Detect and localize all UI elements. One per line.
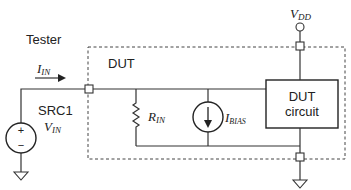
vdd-terminal-icon bbox=[296, 23, 304, 31]
src1-label: SRC1 bbox=[38, 103, 73, 118]
dut-circuit-label-line2: circuit bbox=[285, 104, 319, 119]
resistor-icon bbox=[133, 89, 139, 146]
rin-label: RIN bbox=[147, 109, 166, 125]
circuit-diagram: Tester DUT IIN + − SRC1 VIN RIN IBIAS DU… bbox=[0, 0, 351, 190]
vdd-label: VDD bbox=[290, 6, 311, 22]
iin-label: IIN bbox=[36, 61, 51, 77]
dut-circuit-label-line1: DUT bbox=[289, 89, 316, 104]
svg-text:+: + bbox=[18, 124, 24, 136]
svg-text:−: − bbox=[18, 139, 24, 151]
voltage-source-icon: + − bbox=[6, 123, 36, 153]
dut-label: DUT bbox=[108, 56, 135, 71]
current-source-icon bbox=[193, 102, 223, 132]
input-pin bbox=[85, 85, 93, 93]
vdd-pin bbox=[296, 42, 304, 50]
gnd-pin bbox=[296, 153, 304, 161]
tester-label: Tester bbox=[26, 32, 62, 47]
ground-icon bbox=[293, 180, 307, 188]
ground-icon bbox=[14, 153, 28, 180]
ibias-label: IBIAS bbox=[224, 110, 246, 126]
vin-label: VIN bbox=[44, 119, 62, 135]
